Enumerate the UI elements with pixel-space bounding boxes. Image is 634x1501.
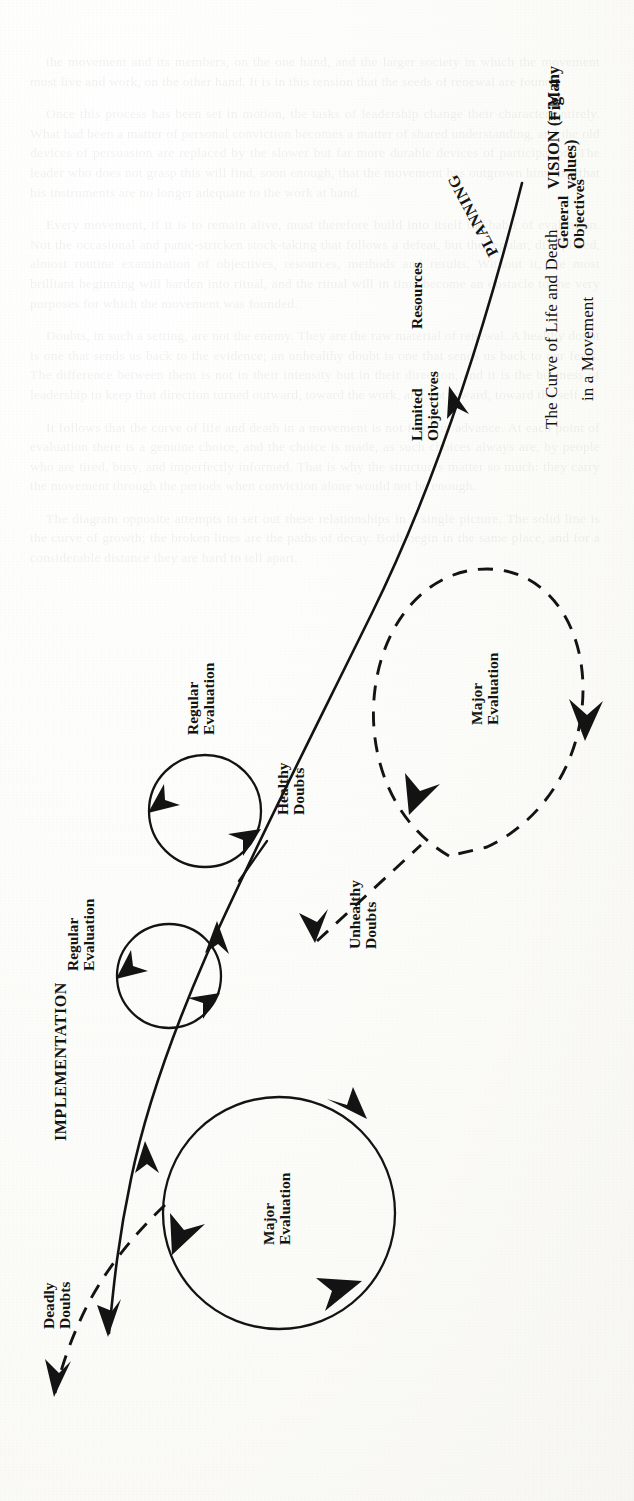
scanned-page: the movement and its members, on the one…: [0, 0, 634, 1501]
curve-diagram-svg: .ln{fill:none;stroke:#141414;stroke-widt…: [17, 61, 617, 1441]
loop-regular-evaluation-lower: [148, 755, 261, 867]
label-resources: Resources: [409, 262, 425, 329]
label-major-evaluation-solid: Major Evaluation: [261, 1172, 294, 1244]
loop-regular-evaluation-upper: [116, 924, 221, 1028]
loop-arrowhead: [170, 1213, 205, 1255]
main-growth-curve: [97, 183, 522, 1337]
label-implementation: IMPLEMENTATION: [53, 982, 70, 1141]
label-limited-objectives: Limited Objectives: [409, 371, 442, 441]
label-regular-evaluation-upper: Regular Evaluation: [65, 898, 98, 970]
figure-caption-line-2: in a Movement: [577, 296, 598, 400]
implementation-direction-arrowhead: [205, 921, 229, 954]
dashed-loop-arrowhead: [569, 699, 603, 741]
label-regular-evaluation-lower: Regular Evaluation: [185, 662, 218, 734]
figure-rotated-canvas: .ln{fill:none;stroke:#141414;stroke-widt…: [17, 61, 617, 1441]
label-deadly-doubts: Deadly Doubts: [41, 1281, 74, 1328]
figure-caption-line-1: The Curve of Life and Death: [541, 229, 562, 429]
growth-curve-arrowhead: [97, 1299, 121, 1337]
dashed-loop-arrowhead: [405, 773, 440, 815]
unhealthy-doubts-arrowhead: [299, 909, 328, 943]
loop-arrowhead: [316, 1278, 362, 1311]
label-healthy-doubts: Healthy Doubts: [275, 762, 308, 815]
figure-number: Fig. 4: [545, 79, 564, 121]
deadly-doubts-arrowhead: [45, 1359, 71, 1397]
loop-arrowhead: [327, 1087, 367, 1119]
loop-arrowhead: [188, 993, 220, 1019]
label-unhealthy-doubts: Unhealthy Doubts: [347, 880, 380, 949]
figure-4: .ln{fill:none;stroke:#141414;stroke-widt…: [0, 0, 634, 1501]
planning-direction-arrowhead: [447, 386, 469, 419]
label-major-evaluation-dashed: Major Evaluation: [469, 652, 502, 724]
